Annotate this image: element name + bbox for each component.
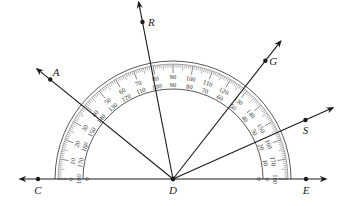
inner-scale-number: 90 (170, 81, 177, 88)
label-s: S (303, 124, 309, 136)
point-e (304, 177, 308, 181)
ray-s (173, 108, 333, 179)
label-c: C (34, 184, 42, 196)
label-e: E (302, 184, 310, 196)
inner-scale-number: 10 (262, 159, 270, 167)
label-g: G (269, 55, 277, 67)
label-d: D (168, 184, 177, 196)
rays (20, 2, 333, 181)
label-r: R (147, 16, 155, 28)
inner-scale-number: 80 (186, 82, 194, 90)
protractor: 1800170101602015030140401305012060110701… (55, 61, 291, 184)
point-labels: ESGRACD (34, 16, 309, 196)
point-d (171, 177, 176, 182)
label-a: A (52, 66, 60, 78)
protractor-diagram: 1800170101602015030140401305012060110701… (0, 0, 347, 206)
outer-scale-number: 90 (170, 73, 177, 80)
point-a (48, 77, 52, 81)
point-g (263, 59, 267, 63)
point-c (36, 177, 40, 181)
point-r (140, 20, 144, 24)
outer-scale-number: 10 (69, 157, 77, 165)
point-s (303, 118, 307, 122)
